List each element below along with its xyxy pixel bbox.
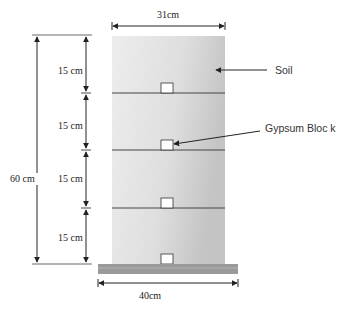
gypsum-block-2 xyxy=(161,140,173,150)
layer-1-height-label: 15 cm xyxy=(58,65,83,76)
gypsum-block-4 xyxy=(161,254,173,264)
gypsum-block-1 xyxy=(161,83,173,93)
layer-2-height-label: 15 cm xyxy=(58,120,83,131)
layer-4-height-label: 15 cm xyxy=(58,232,83,243)
soil-label: Soil xyxy=(275,64,293,76)
base-plate xyxy=(98,264,238,274)
base-width-label: 40cm xyxy=(139,290,161,301)
gypsum-block-label: Gypsum Bloc k xyxy=(265,122,336,134)
column-width-label: 31cm xyxy=(157,9,179,20)
total-height-label: 60 cm xyxy=(10,173,35,184)
base-width-dimension xyxy=(98,279,238,287)
column-width-dimension xyxy=(112,22,225,30)
gypsum-block-3 xyxy=(161,198,173,208)
layer-3-height-label: 15 cm xyxy=(58,173,83,184)
soil-column-diagram: 31cm 40cm 60 cm 15 cm 15 cm 15 cm 15 cm … xyxy=(0,0,345,312)
